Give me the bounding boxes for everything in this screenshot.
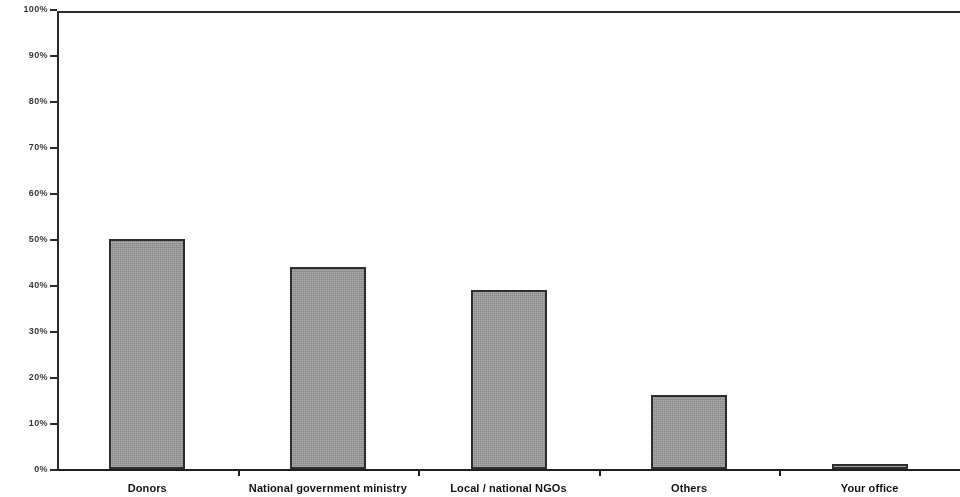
x-axis-tick [779,469,781,476]
y-axis-line [57,11,59,471]
y-axis-tick [50,331,57,333]
y-axis-tick [50,469,57,471]
plot-area: 0%10%20%30%40%50%60%70%80%90%100% [57,11,960,471]
y-axis-tick-label: 50% [0,234,48,244]
y-axis-tick [50,55,57,57]
y-axis-tick [50,101,57,103]
x-axis-category-label: Local / national NGOs [450,482,566,494]
y-axis-tick [50,377,57,379]
bar-chart: 0%10%20%30%40%50%60%70%80%90%100% Donors… [0,0,960,497]
y-axis-tick [50,285,57,287]
y-axis-tick-label: 40% [0,280,48,290]
x-axis-category-label: Donors [128,482,167,494]
y-axis-tick [50,423,57,425]
y-axis-tick-label: 10% [0,418,48,428]
y-axis-tick [50,193,57,195]
x-axis-category-label: Your office [841,482,899,494]
y-axis-tick [50,239,57,241]
x-axis-line [57,469,960,471]
y-axis-tick [50,147,57,149]
y-axis-tick [50,9,57,11]
bar [290,267,366,469]
bar [832,464,908,469]
x-axis-category-label: National government ministry [249,482,407,494]
y-axis-tick-label: 90% [0,50,48,60]
y-axis-tick-label: 20% [0,372,48,382]
bar [651,395,727,469]
x-axis-tick [418,469,420,476]
y-axis-tick-label: 30% [0,326,48,336]
x-axis-category-label: Others [671,482,707,494]
bar [109,239,185,469]
y-axis-tick-label: 100% [0,4,48,14]
y-axis-tick-label: 0% [0,464,48,474]
y-axis-tick-label: 80% [0,96,48,106]
x-axis-tick [599,469,601,476]
plot-top-border [57,11,960,13]
x-axis-tick [238,469,240,476]
bar [471,290,547,469]
y-axis-tick-label: 70% [0,142,48,152]
y-axis-tick-label: 60% [0,188,48,198]
